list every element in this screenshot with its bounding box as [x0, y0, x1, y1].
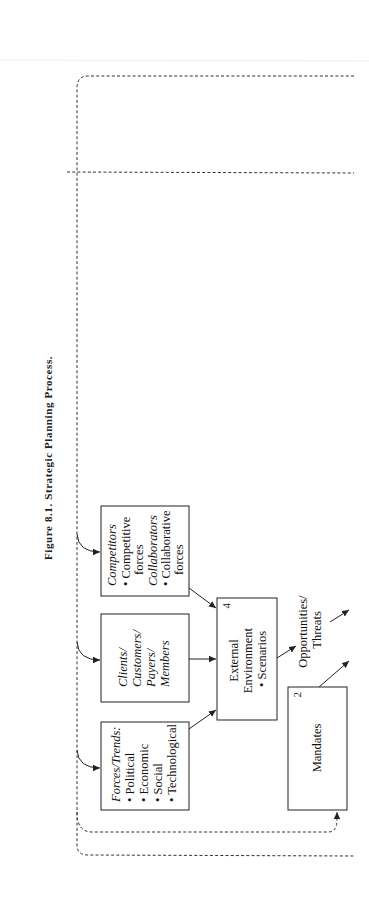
forces-heading: Forces/Trends:	[109, 727, 123, 803]
arrow-to-clients	[77, 642, 100, 660]
strategic-planning-diagram: Figure 8.1. Strategic Planning Process. …	[0, 0, 369, 912]
page-edge-line	[0, 60, 369, 61]
arrow-to-competitors	[77, 534, 100, 552]
forces-trends-box: Forces/Trends: • Political • Economic • …	[101, 722, 189, 810]
competitors-heading: Competitors	[105, 524, 119, 586]
figure-title: Figure 8.1. Strategic Planning Process.	[42, 356, 54, 560]
mandates-number: 2	[291, 692, 303, 698]
mandates-label: Mandates	[310, 724, 324, 773]
collaborators-heading: Collaborators	[146, 515, 160, 586]
arrow-to-forces	[77, 750, 100, 768]
competitors-box: Competitors • Competitive forces Collabo…	[101, 506, 189, 596]
opportunities-threats-label: Opportunities/ Threats	[296, 592, 324, 667]
dashed-divider-line	[67, 172, 354, 173]
clients-box: Clients/ Customers/ Payers/ Members	[101, 614, 189, 702]
external-number: 4	[220, 603, 232, 609]
external-environment-box: 4 External Environment • Scenarios	[217, 598, 277, 720]
arrow-external-to-opportunities	[277, 646, 296, 658]
mandates-box: 2 Mandates	[288, 687, 347, 810]
mandates-feedback-loop	[77, 812, 337, 832]
arrow-mandates-out	[319, 661, 349, 687]
arrow-competitors-to-external	[189, 588, 216, 608]
arrow-opportunities-out	[330, 610, 349, 622]
arrow-forces-to-external	[189, 710, 216, 729]
